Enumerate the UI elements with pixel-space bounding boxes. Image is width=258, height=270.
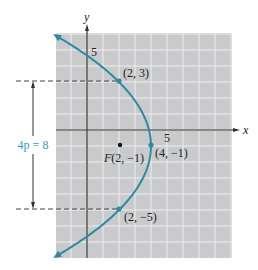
x-tick-label: 5 <box>164 131 170 145</box>
focus-label: F(2, −1) <box>103 151 144 165</box>
x-axis-label: x <box>242 123 249 137</box>
point-label-vertex: (4, −1) <box>155 146 188 160</box>
x-axis-arrow-icon <box>233 128 240 132</box>
y-axis-arrow-icon <box>85 24 89 31</box>
dimension-arrow-down-icon <box>31 202 35 209</box>
point-2-neg5 <box>116 206 121 211</box>
focus-point <box>118 143 122 147</box>
y-tick-label: 5 <box>91 45 97 59</box>
point-2-3 <box>116 78 121 83</box>
parabola-figure: y x 5 5 4p = 8 (2, 3) (4, −1) (2, −5) F(… <box>0 0 258 270</box>
dimension-arrow-up-icon <box>31 81 35 88</box>
dimension-label: 4p = 8 <box>18 138 49 152</box>
point-label-2-neg5: (2, −5) <box>124 210 157 224</box>
point-vertex <box>148 142 153 147</box>
point-label-2-3: (2, 3) <box>123 66 149 80</box>
y-axis-label: y <box>83 10 90 24</box>
